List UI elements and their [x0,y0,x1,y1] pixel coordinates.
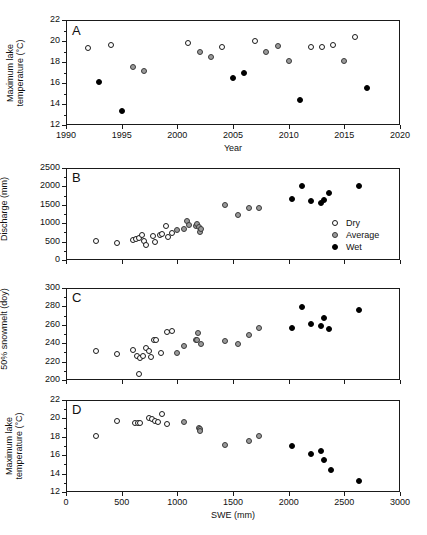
x-tick [122,492,123,496]
x-tick-label: 2015 [319,131,369,140]
x-tick [344,260,345,264]
data-point-average [130,64,136,70]
data-point-dry [150,233,156,239]
y-tick-label: 12 [20,120,60,129]
data-point-average [181,343,187,349]
y-tick-label: 14 [20,99,60,108]
data-point-dry [108,42,114,48]
data-point-dry [152,239,158,245]
x-tick-label: 2000 [264,498,314,507]
y-tick-label: 16 [20,78,60,87]
x-tick-label: 2010 [264,131,314,140]
x-tick [66,492,67,496]
data-point-average [256,433,262,439]
y-tick [62,400,66,401]
data-point-dry [114,240,120,246]
data-point-dry [130,347,136,353]
y-tick [62,306,66,307]
y-tick-label: 200 [20,375,60,384]
x-tick [233,380,234,384]
legend-item: Wet [332,242,400,252]
x-tick [289,380,290,384]
y-minor-tick [64,177,66,178]
y-tick-label: 260 [20,320,60,329]
data-point-wet [230,75,236,81]
data-point-average [256,205,262,211]
y-tick-label: 18 [20,432,60,441]
panel-b-label: B [72,171,81,184]
y-tick [62,288,66,289]
x-tick [66,125,67,129]
data-point-dry [114,351,120,357]
y-tick-label: 16 [20,450,60,459]
data-point-dry [319,44,325,50]
x-tick [344,492,345,496]
x-tick [177,125,178,129]
data-point-average [208,54,214,60]
y-tick-label: 300 [20,283,60,292]
scientific-figure: A Maximum laketemperature (°C) 121416182… [0,0,427,535]
x-tick-label: 3000 [375,498,425,507]
y-tick-label: 280 [20,301,60,310]
y-minor-tick [64,371,66,372]
y-tick-label: 500 [20,237,60,246]
data-point-wet [289,443,295,449]
data-point-wet [308,198,314,204]
data-point-average [141,68,147,74]
data-point-average [275,43,281,49]
y-tick [62,83,66,84]
y-minor-tick [64,31,66,32]
y-minor-tick [64,446,66,447]
x-tick [233,125,234,129]
y-tick-label: 12 [20,487,60,496]
data-point-average [246,332,252,338]
y-minor-tick [64,52,66,53]
data-point-wet [297,97,303,103]
legend-label: Average [346,230,379,240]
x-tick [289,492,290,496]
panel-c-y-axis-label: 50% snowmelt (doy) [0,263,9,395]
x-tick-label: 0 [41,498,91,507]
data-point-wet [289,325,295,331]
panel-d-plot-frame [66,400,400,492]
y-tick-label: 0 [20,255,60,264]
x-tick-label: 1990 [41,131,91,140]
data-point-wet [318,323,324,329]
y-tick [62,104,66,105]
series-legend: DryAverageWet [332,218,400,258]
data-point-average [197,49,203,55]
y-tick-label: 2000 [20,181,60,190]
x-tick [233,260,234,264]
y-minor-tick [64,352,66,353]
x-tick [400,380,401,384]
data-point-dry [148,354,154,360]
data-point-dry [137,420,143,426]
y-minor-tick [64,483,66,484]
y-minor-tick [64,334,66,335]
x-tick [344,380,345,384]
data-point-wet [364,85,370,91]
y-minor-tick [64,214,66,215]
panel-a-x-axis-label: Year [173,143,293,153]
data-point-wet [318,448,324,454]
y-minor-tick [64,464,66,465]
y-tick [62,325,66,326]
panel-a-plot-frame [66,20,400,125]
y-tick-label: 18 [20,57,60,66]
y-minor-tick [64,196,66,197]
legend-marker-dry [332,220,338,226]
y-tick [62,437,66,438]
y-minor-tick [64,232,66,233]
y-tick-label: 22 [20,15,60,24]
y-tick [62,168,66,169]
x-tick [122,380,123,384]
x-tick-label: 1500 [208,498,258,507]
x-tick [289,125,290,129]
data-point-dry [164,421,170,427]
x-tick [122,260,123,264]
y-minor-tick [64,409,66,410]
x-tick [233,492,234,496]
y-minor-tick [64,73,66,74]
y-minor-tick [64,316,66,317]
panel-a-label: A [72,24,81,37]
